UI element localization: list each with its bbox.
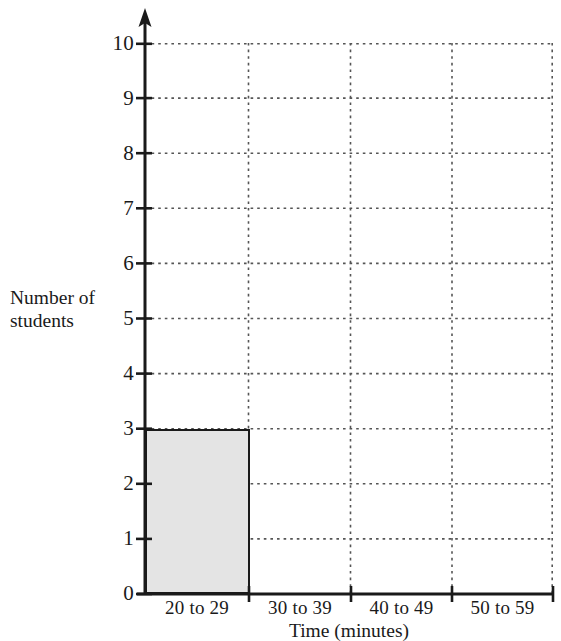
y-tick-label-7: 7: [100, 198, 134, 219]
bar-chart: 10 9 8 7 6 5 4 3 2 1 0 20 to 29 30 to 39…: [0, 0, 561, 641]
y-axis-title: Number of students: [10, 286, 130, 332]
y-tick-label-1: 1: [100, 528, 134, 549]
y-tick-label-0: 0: [100, 583, 134, 604]
y-axis-arrow-icon: [139, 8, 152, 27]
y-tick-label-9: 9: [100, 88, 134, 109]
x-axis-title: Time (minutes): [145, 620, 553, 641]
bar-20-to-29: [145, 429, 250, 594]
y-tick-label-2: 2: [100, 473, 134, 494]
y-tick-label-8: 8: [100, 143, 134, 164]
y-tick-label-3: 3: [100, 418, 134, 439]
y-axis-title-line-2: students: [10, 309, 130, 332]
y-axis-title-line-1: Number of: [10, 286, 130, 309]
y-tick-label-4: 4: [100, 363, 134, 384]
x-tick-label-50-to-59: 50 to 59: [452, 597, 553, 619]
x-tick-label-30-to-39: 30 to 39: [249, 597, 351, 619]
y-tick-label-6: 6: [100, 253, 134, 274]
bars-layer: [145, 43, 553, 594]
y-tick-label-10: 10: [100, 33, 134, 54]
x-tick-label-20-to-29: 20 to 29: [145, 597, 249, 619]
x-tick-label-40-to-49: 40 to 49: [351, 597, 452, 619]
